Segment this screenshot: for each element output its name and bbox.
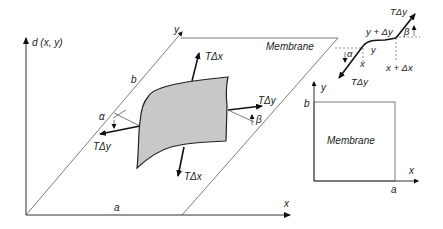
- y-axis-label: y: [173, 24, 180, 35]
- force-left-arrow: [100, 126, 140, 134]
- plan-x-label: x: [408, 165, 415, 176]
- detail-y-label: y: [370, 44, 377, 55]
- plan-y-label: y: [320, 82, 327, 93]
- detail-force-top-label: TΔy: [390, 6, 408, 17]
- detail-string: [363, 38, 396, 46]
- plan-b-label: b: [304, 98, 310, 109]
- side-b-label: b: [131, 74, 137, 85]
- side-a-label: a: [114, 202, 120, 213]
- force-left-label: TΔy: [93, 141, 112, 152]
- force-right-arrow: [228, 106, 262, 110]
- plan-a-label: a: [391, 184, 397, 195]
- detail-x-plus-dx-label: x + Δx: [385, 62, 414, 73]
- beta-label: β: [255, 114, 262, 125]
- force-bottom-label: TΔx: [184, 171, 203, 182]
- alpha-tick: [113, 110, 126, 118]
- force-top-label: TΔx: [205, 51, 224, 62]
- detail-y-plus-dy-label: y + Δy: [365, 26, 394, 37]
- d-axis-label: d (x, y): [32, 37, 63, 48]
- force-right-label: TΔy: [258, 95, 277, 106]
- membrane-diagram: d (x, y) x y Membrane b a TΔx TΔx TΔy α …: [0, 0, 443, 229]
- detail-force-bottom-label: TΔy: [351, 76, 369, 87]
- alpha-label: α: [99, 111, 105, 122]
- detail-alpha-label: α: [347, 48, 353, 59]
- plan-membrane-label: Membrane: [327, 135, 375, 146]
- plan-view: y x b a Membrane: [304, 82, 418, 195]
- main-diagram: d (x, y) x y Membrane b a TΔx TΔx TΔy α …: [26, 24, 338, 215]
- detail-x-label: x: [359, 58, 366, 69]
- force-top-arrow: [192, 53, 199, 81]
- beta-reference-line: [228, 110, 254, 122]
- membrane-label: Membrane: [266, 41, 314, 52]
- detail-beta-label: β: [403, 26, 410, 37]
- x-axis-label: x: [283, 198, 290, 209]
- detail-diagram: TΔy TΔy α β y + Δy y x x + Δx: [335, 6, 420, 87]
